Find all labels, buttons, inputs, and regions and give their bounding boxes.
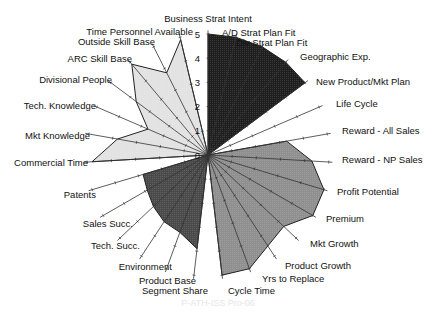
category-label: Outside Skill Base <box>78 36 155 47</box>
category-label: Yrs to Replace <box>262 273 324 284</box>
tick-label: 5 <box>195 29 200 40</box>
axis-tick <box>112 137 113 140</box>
category-label: Product Base <box>139 275 196 286</box>
axis-tick <box>173 245 176 246</box>
series-area-success <box>143 155 208 249</box>
axis-tick <box>115 181 116 184</box>
series-area-market-reward <box>208 141 324 275</box>
category-label: Mkt Knowledge <box>25 130 90 141</box>
category-label: Geographic Exp. <box>300 51 371 62</box>
tick-label: 2 <box>195 101 200 112</box>
radar-chart-svg: 012345Business Strat IntentA/D Strat Pla… <box>0 0 436 312</box>
category-label: Premium <box>326 213 364 224</box>
category-label: Life Cycle <box>336 98 378 109</box>
category-label: ARC Skill Base <box>68 53 132 64</box>
category-label: Commercial Time <box>14 157 88 168</box>
radar-chart: 012345Business Strat IntentA/D Strat Pla… <box>0 0 436 312</box>
category-label: Div Strat Plan Fit <box>236 37 308 48</box>
category-label: Time Personnel Available <box>86 26 193 37</box>
category-label: Reward - All Sales <box>342 125 420 136</box>
axis-tick <box>138 174 139 177</box>
category-label: Cycle Time <box>228 285 275 296</box>
category-label: Tech. Succ. <box>91 240 140 251</box>
category-label: Reward - NP Sales <box>342 154 423 165</box>
tick-label: 4 <box>195 53 200 64</box>
category-label: Environment <box>119 261 173 272</box>
axis-tick <box>303 137 304 140</box>
chart-caption: P-ATH-ISS Pro-06 <box>181 298 254 308</box>
category-label: Business Strat Intent <box>164 13 252 24</box>
axis-tick <box>327 133 328 136</box>
category-label: Profit Potential <box>337 186 399 197</box>
axis-tick <box>179 37 182 38</box>
tick-label: 3 <box>195 77 200 88</box>
category-label: Sales Succ. <box>83 218 133 229</box>
category-label: Tech. Knowledge <box>24 100 96 111</box>
tick-label: 0 <box>195 150 200 161</box>
category-label: Segment Share <box>142 285 208 296</box>
category-label: Product Growth <box>285 260 351 271</box>
category-label: Patents <box>64 189 96 200</box>
category-label: New Product/Mkt Plan <box>316 76 410 87</box>
category-label: Mkt Growth <box>310 238 359 249</box>
category-label: Divisional People <box>39 74 112 85</box>
tick-label: 1 <box>195 125 200 136</box>
